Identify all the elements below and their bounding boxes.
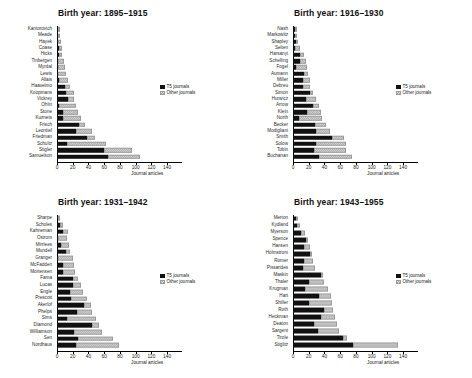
bar-segment-other <box>76 343 119 348</box>
bar-segment-other <box>58 27 60 31</box>
bar-segment-other <box>63 229 69 234</box>
y-axis-tick-label: Sharpe <box>0 215 55 222</box>
x-axis-tick-label: 20 <box>70 165 75 170</box>
legend-1: T5 journals Other journals <box>160 84 195 96</box>
panel-title: Birth year: 1895–1915 <box>58 8 228 18</box>
y-axis-tick-label: Lucas <box>0 282 55 289</box>
x-axis-tick-label: 60 <box>102 354 107 359</box>
legend-label-other: Other journals <box>403 90 432 96</box>
bar-segment-t5 <box>57 303 84 308</box>
y-axis-tick-label: Spence <box>236 236 291 243</box>
bar-segment-t5 <box>293 336 343 341</box>
bar-row <box>57 242 175 249</box>
bar-segment-other <box>307 110 320 114</box>
bar-segment-t5 <box>293 97 306 101</box>
bar-segment-other <box>301 230 305 235</box>
bar-segment-other <box>58 40 61 44</box>
bar-segment-t5 <box>57 316 67 321</box>
x-axis-tick-label: 0 <box>292 165 295 170</box>
bar-segment-other <box>63 270 75 275</box>
bar-segment-t5 <box>293 129 316 133</box>
x-axis-tick-label: 120 <box>147 165 155 170</box>
y-axis-tick-label: Sims <box>0 315 55 322</box>
x-axis-tick-label: 60 <box>338 165 343 170</box>
bar-segment-t5 <box>293 329 318 334</box>
legend-swatch-t5-icon <box>160 274 165 279</box>
x-axis-tick-label: 20 <box>70 354 75 359</box>
bar-segment-t5 <box>293 142 316 146</box>
bar-segment-other <box>324 308 333 313</box>
bar-segment-t5 <box>57 323 92 328</box>
bar-row <box>57 154 175 160</box>
bar-segment-t5 <box>293 315 321 320</box>
bar-segment-other <box>319 154 352 158</box>
y-axis-tick-label: Pissarides <box>236 264 291 271</box>
bar-segment-other <box>87 135 95 139</box>
bar-segment-t5 <box>293 230 301 235</box>
x-axis-tick-label: 20 <box>306 354 311 359</box>
bar-row <box>293 342 411 349</box>
bar-segment-t5 <box>293 52 300 56</box>
bar-segment-other <box>318 329 339 334</box>
y-axis-tick-label: Williamson <box>0 329 55 336</box>
bar-segment-other <box>316 142 346 146</box>
bar-segment-other <box>304 244 310 249</box>
legend-label-t5: T5 journals <box>167 273 190 279</box>
y-axis-tick-label: Engle <box>0 289 55 296</box>
y-axis-tick-label: Mirrlees <box>0 242 55 249</box>
bar-segment-other <box>306 97 316 101</box>
legend-swatch-t5-icon <box>160 85 165 90</box>
bar-row <box>57 228 175 235</box>
panel-1943-1955: Birth year: 1943–1955 MertonKydlandMyers… <box>236 189 472 378</box>
bar-row <box>57 289 175 296</box>
y-axis-tick-label: Holmstrom <box>236 250 291 257</box>
bar-segment-other <box>58 65 65 69</box>
figure-grid: Birth year: 1895–1915 KantorovichMeadeHa… <box>0 0 472 378</box>
bar-segment-other <box>303 265 315 270</box>
bar-row <box>293 257 411 264</box>
bar-segment-t5 <box>293 154 319 158</box>
y-axis-tick-label: Mortensen <box>0 269 55 276</box>
bar-segment-other <box>304 258 313 263</box>
bar-segment-other <box>67 142 106 146</box>
y-axis-tick-label: Heckman <box>236 314 291 321</box>
bar-segment-other <box>296 40 298 44</box>
bar-row <box>57 302 175 309</box>
bar-row <box>57 282 175 289</box>
bar-row <box>57 248 175 255</box>
bar-row <box>293 250 411 257</box>
bar-segment-t5 <box>293 251 310 256</box>
bar-row <box>293 243 411 250</box>
bar-segment-other <box>303 78 309 82</box>
x-axis-tick-label: 80 <box>353 165 358 170</box>
y-axis-tick-label: McFadden <box>0 262 55 269</box>
y-axis-tick-label: Diamond <box>0 322 55 329</box>
bar-segment-other <box>315 123 326 127</box>
bar-row <box>57 315 175 322</box>
bar-segment-other <box>59 52 63 56</box>
y-axis-tick-label: Kahneman <box>0 228 55 235</box>
bar-segment-t5 <box>293 110 307 114</box>
bar-row <box>57 329 175 336</box>
x-axis-title: Journal articles <box>131 360 163 365</box>
bar-segment-other <box>59 46 62 50</box>
bar-segment-other <box>63 110 78 114</box>
bar-segment-t5 <box>57 97 68 101</box>
bar-segment-other <box>321 315 335 320</box>
bar-segment-other <box>63 263 73 268</box>
bar-row <box>57 255 175 262</box>
bar-segment-t5 <box>293 59 300 63</box>
bar-segment-other <box>321 272 323 277</box>
x-axis-tick-label: 20 <box>306 165 311 170</box>
x-axis-tick-label: 120 <box>147 354 155 359</box>
bar-segment-other <box>63 116 81 120</box>
bar-segment-other <box>65 84 70 88</box>
bar-segment-t5 <box>293 301 309 306</box>
bar-segment-other <box>296 216 298 221</box>
x-axis-tick-label: 40 <box>322 354 327 359</box>
y-axis-tick-label: Hansen <box>236 243 291 250</box>
y-axis-tick-label: Maskin <box>236 271 291 278</box>
legend-swatch-other-icon <box>396 280 401 285</box>
y-axis-labels-1: KantorovichMeadeHayekCoaseHicksTinbergen… <box>0 26 55 160</box>
bar-segment-other <box>71 296 87 301</box>
